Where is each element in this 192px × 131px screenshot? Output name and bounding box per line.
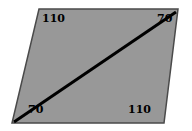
angle-label-bottom-left: 70 bbox=[28, 104, 43, 115]
angle-label-top-left: 110 bbox=[42, 13, 65, 24]
parallelogram-figure: 110 70 70 110 bbox=[0, 0, 192, 131]
angle-label-bottom-right: 110 bbox=[128, 104, 151, 115]
angle-label-top-right: 70 bbox=[157, 13, 172, 24]
